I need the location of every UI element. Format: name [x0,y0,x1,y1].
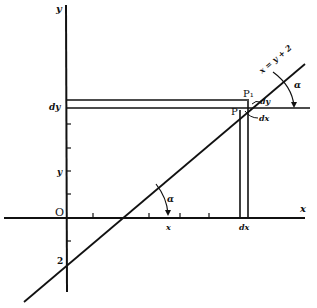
increment-dy-label: dy [260,96,272,106]
x-axis-marker-dx-label: dx [239,222,250,232]
arrowhead-upper [291,102,297,108]
x-axis-marker-x-label: x [165,222,171,232]
y-axis [66,5,67,292]
origin-label: O [55,206,64,219]
geometry-figure: y x O 2 dy y x dx P₁ P dy dx α α x = y +… [0,0,317,308]
y-axis-marker-mid-label: y [56,167,63,177]
y-axis-label: y [55,3,63,14]
angle-upper-label: α [294,80,301,90]
point-p-label: P [231,106,238,117]
increment-dx-label: dx [259,113,270,123]
arrowhead-lower [165,210,171,216]
y-axis-marker-top-label: dy [49,102,61,112]
y-intercept-label: 2 [57,256,63,266]
diagram-canvas: y x O 2 dy y x dx P₁ P dy dx α α x = y +… [0,0,317,308]
angle-lower-label: α [167,194,174,204]
x-axis-label: x [299,203,307,214]
line-equation-label: x = y + 2 [256,42,294,76]
point-p1-label: P₁ [243,88,254,99]
